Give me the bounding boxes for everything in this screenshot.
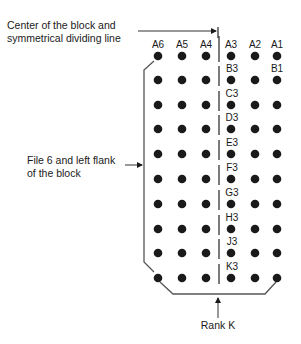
pin-H6 [154, 225, 163, 234]
pin-E6 [154, 150, 163, 159]
pin-F2 [251, 175, 260, 184]
pin-B1 [273, 76, 282, 85]
pin-D6 [154, 125, 163, 134]
label-A2: A2 [249, 39, 261, 51]
label-A3: A3 [225, 39, 237, 51]
pin-H5 [178, 225, 187, 234]
pin-K6 [154, 274, 163, 283]
pin-G4 [202, 200, 211, 209]
center-line-annotation: Center of the block and symmetrical divi… [7, 19, 121, 45]
label-A1: A1 [271, 39, 283, 51]
pin-C2 [251, 101, 260, 110]
label-J3: J3 [227, 236, 238, 248]
pin-D1 [273, 125, 282, 134]
pin-C3 [227, 101, 236, 110]
pin-E3 [227, 150, 236, 159]
pin-D2 [251, 125, 260, 134]
pin-C5 [178, 101, 187, 110]
pin-K4 [202, 274, 211, 283]
pin-F3 [227, 175, 236, 184]
label-B1: B1 [271, 63, 283, 75]
rank-k-annotation: Rank K [201, 319, 235, 332]
pin-D4 [202, 125, 211, 134]
pin-F5 [178, 175, 187, 184]
pin-H1 [273, 225, 282, 234]
pin-B6 [154, 76, 163, 85]
pin-K2 [251, 274, 260, 283]
pin-A4 [202, 52, 211, 61]
pin-J5 [178, 249, 187, 258]
label-F3: F3 [226, 162, 238, 174]
pin-C1 [273, 101, 282, 110]
label-A6: A6 [152, 39, 164, 51]
pin-G2 [251, 200, 260, 209]
pin-A2 [251, 52, 260, 61]
pin-F6 [154, 175, 163, 184]
rank-k-bracket [160, 282, 276, 294]
pin-G6 [154, 200, 163, 209]
pin-K3 [227, 274, 236, 283]
pin-J6 [154, 249, 163, 258]
pin-A6 [154, 52, 163, 61]
pin-A1 [273, 52, 282, 61]
pin-F4 [202, 175, 211, 184]
pin-A5 [178, 52, 187, 61]
label-A5: A5 [176, 39, 188, 51]
pin-B5 [178, 76, 187, 85]
label-K3: K3 [226, 261, 238, 273]
pin-J4 [202, 249, 211, 258]
pin-H3 [227, 225, 236, 234]
pin-grid [154, 52, 282, 283]
pin-C6 [154, 101, 163, 110]
left-flank-bracket [144, 61, 154, 272]
pin-E1 [273, 150, 282, 159]
pin-G3 [227, 200, 236, 209]
label-A4: A4 [200, 39, 212, 51]
label-C3: C3 [226, 88, 239, 100]
pin-G1 [273, 200, 282, 209]
pin-F1 [273, 175, 282, 184]
label-H3: H3 [226, 212, 239, 224]
pin-J3 [227, 249, 236, 258]
label-D3: D3 [226, 112, 239, 124]
pin-A3 [227, 52, 236, 61]
pin-K5 [178, 274, 187, 283]
pin-K1 [273, 274, 282, 283]
pin-H4 [202, 225, 211, 234]
left-flank-annotation: File 6 and left flank of the block [27, 154, 115, 180]
label-B3: B3 [226, 63, 238, 75]
label-E3: E3 [226, 137, 238, 149]
pin-B3 [227, 76, 236, 85]
pin-E5 [178, 150, 187, 159]
pin-H2 [251, 225, 260, 234]
pin-E4 [202, 150, 211, 159]
pin-B4 [202, 76, 211, 85]
pin-J2 [251, 249, 260, 258]
pin-D5 [178, 125, 187, 134]
pin-J1 [273, 249, 282, 258]
pin-G5 [178, 200, 187, 209]
pin-E2 [251, 150, 260, 159]
pin-C4 [202, 101, 211, 110]
label-G3: G3 [225, 187, 238, 199]
pin-B2 [251, 76, 260, 85]
pin-D3 [227, 125, 236, 134]
